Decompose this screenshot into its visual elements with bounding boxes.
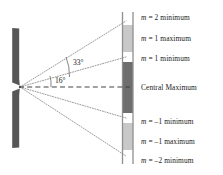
diffraction-rays [20, 21, 126, 156]
screen-band-m1-max-bottom [122, 123, 133, 150]
label-m1-maximum: m = 1 maximum [141, 34, 191, 43]
screen-band-m1-max-top [122, 25, 133, 52]
barrier-lower-plate [12, 89, 20, 148]
angle-arc-16 [50, 76, 51, 87]
screen-band-top-white [122, 12, 133, 25]
label-m2-minimum: m = 2 minimum [141, 13, 190, 22]
label-m1-minimum: m = 1 minimum [141, 54, 190, 63]
label-mneg1-maximum: m = –1 maximum [141, 137, 195, 146]
barrier-upper-plate [12, 28, 20, 85]
screen-band-m1-min-bottom [122, 113, 133, 123]
label-text: = 2 minimum [146, 13, 189, 22]
slit-aperture-point [19, 86, 21, 88]
label-text: = 1 maximum [146, 34, 191, 43]
ray-m2-minimum-lower [20, 87, 126, 156]
angle-label-33: 33° [73, 58, 84, 67]
diffraction-diagram: 33° 16° m = 2 minimum m = 1 maximum m = … [0, 0, 223, 175]
label-mneg2-minimum: m = –2 minimum [141, 156, 194, 165]
label-central-maximum: Central Maximum [141, 83, 197, 92]
label-text: = –1 maximum [146, 137, 194, 146]
screen-band-central-max [122, 62, 133, 113]
label-text: = –1 minimum [146, 117, 193, 126]
label-text: Central Maximum [141, 83, 197, 92]
angle-label-16: 16° [55, 76, 66, 85]
screen-band-m1-min-top [122, 52, 133, 62]
label-text: = –2 minimum [146, 156, 193, 165]
screen-bands [122, 12, 133, 164]
ray-m1-minimum-lower [20, 87, 126, 118]
angle-arc-33 [66, 57, 70, 77]
ray-m2-minimum-upper [20, 21, 126, 87]
label-text: = 1 minimum [146, 54, 189, 63]
label-mneg1-minimum: m = –1 minimum [141, 117, 194, 126]
slit-barrier [12, 28, 21, 148]
screen-band-bottom-white [122, 150, 133, 164]
